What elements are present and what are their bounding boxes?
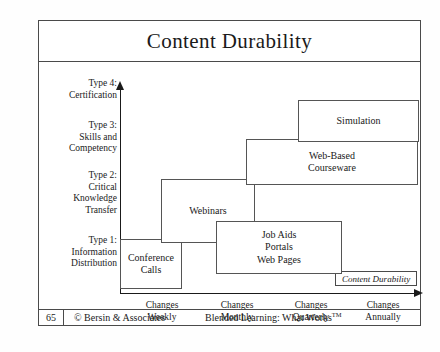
page-frame: Content Durability Type 4: Certification… xyxy=(38,20,421,326)
step-box-web-based-courseware: Web-Based Courseware xyxy=(246,139,418,185)
footer-book-title: Blended Learning: What WorksTM xyxy=(205,311,342,323)
step-box-label: Simulation xyxy=(337,115,381,128)
step-box-label: Web-Based Courseware xyxy=(308,150,356,175)
step-box-label: Webinars xyxy=(189,205,227,218)
step-box-label: Job Aids Portals Web Pages xyxy=(257,229,301,267)
footer-page-number: 65 xyxy=(39,310,64,325)
page-canvas: Content Durability Type 4: Certification… xyxy=(0,0,440,352)
step-box-job-aids: Job Aids Portals Web Pages xyxy=(216,221,342,274)
x-axis-arrow-icon xyxy=(414,289,423,297)
y-axis-tick-type-4: Type 4: Certification xyxy=(7,78,117,101)
step-box-simulation: Simulation xyxy=(298,100,419,142)
page-footer: 65 © Bersin & Associates Blended Learnin… xyxy=(39,309,420,325)
x-axis-caption-box: Content Durability xyxy=(335,271,417,286)
y-axis-arrow-icon xyxy=(116,81,124,90)
trademark-symbol: TM xyxy=(332,311,342,318)
x-axis-caption-label: Content Durability xyxy=(342,274,410,284)
y-axis-tick-type-2: Type 2: Critical Knowledge Transfer xyxy=(7,170,117,216)
footer-copyright: © Bersin & Associates xyxy=(64,312,165,323)
step-box-label: Conference Calls xyxy=(128,252,174,277)
y-axis-tick-type-3: Type 3: Skills and Competency xyxy=(7,120,117,155)
y-axis-tick-type-1: Type 1: Information Distribution xyxy=(7,235,117,270)
x-axis-line xyxy=(120,293,416,294)
footer-book-title-text: Blended Learning: What Works xyxy=(205,313,332,324)
chart-area: Type 4: Certification Type 3: Skills and… xyxy=(39,62,420,311)
step-box-conference-calls: Conference Calls xyxy=(120,239,182,289)
title-band: Content Durability xyxy=(39,21,420,62)
page-title: Content Durability xyxy=(147,29,312,54)
